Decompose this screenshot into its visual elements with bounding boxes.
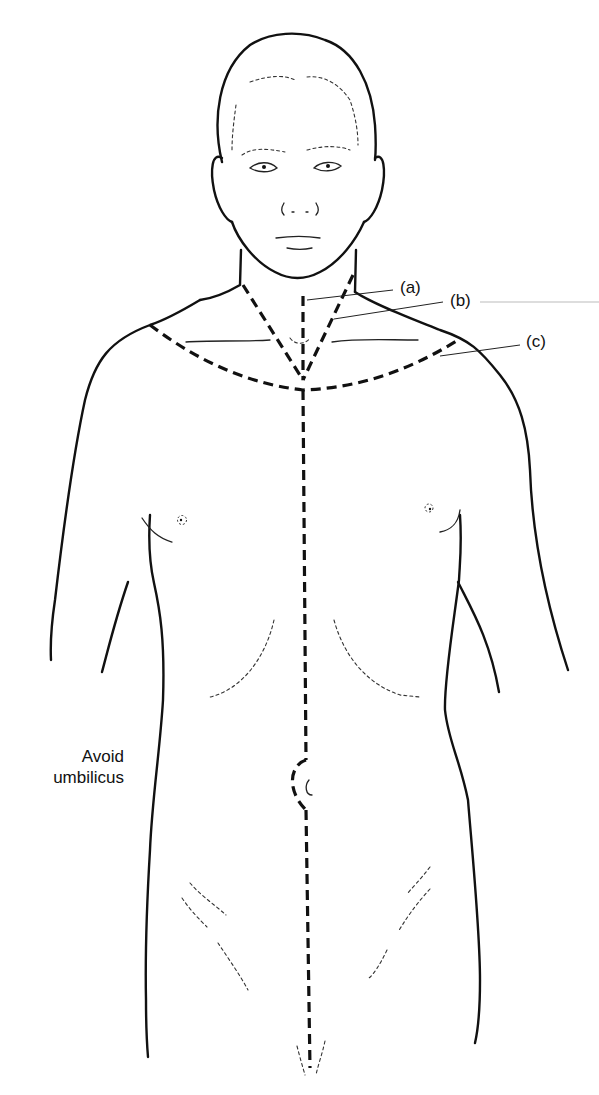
incision-lines: [150, 275, 458, 1068]
label-a: (a): [400, 278, 421, 298]
head: [212, 34, 384, 278]
body-outline: [51, 300, 499, 1075]
label-b: (b): [450, 291, 471, 311]
note-line-1: Avoid: [40, 746, 124, 767]
anatomy-figure: [0, 0, 599, 1095]
neck: [200, 250, 568, 670]
label-c: (c): [526, 332, 546, 352]
note-line-2: umbilicus: [40, 767, 124, 788]
avoid-umbilicus-note: Avoid umbilicus: [40, 746, 124, 788]
